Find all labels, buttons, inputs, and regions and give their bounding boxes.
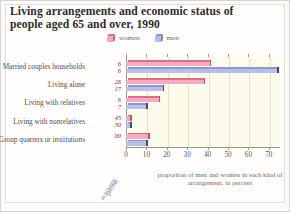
category-label: Living alone: [48, 80, 85, 89]
chart-frame: Living arrangements and economic status …: [0, 0, 290, 212]
x-tick-label: 50: [224, 151, 231, 159]
bar-men: [126, 103, 146, 109]
page-title: Living arrangements and economic status …: [10, 5, 260, 31]
bar-row: Group quarters or institutions00: [1, 133, 290, 147]
poverty-value-women: 26: [105, 78, 121, 85]
x-tick-label: 40: [204, 151, 211, 159]
x-tick: [228, 147, 229, 150]
legend-label-women: women: [119, 34, 140, 42]
x-tick-label: 60: [245, 151, 252, 159]
bar-women: [126, 60, 210, 66]
x-tick-label: 0: [124, 151, 128, 159]
x-tick: [146, 147, 147, 150]
bar-women: [126, 115, 130, 121]
x-tick-label: 30: [184, 151, 191, 159]
bar-women: [126, 96, 159, 102]
x-tick-label: 70: [265, 151, 272, 159]
bar-men: [126, 122, 130, 128]
men-swatch-icon: [155, 34, 163, 42]
category-label: Married couples households: [3, 62, 85, 71]
poverty-value-men: 6: [105, 67, 121, 74]
x-tick: [208, 147, 209, 150]
bar-row: Living alone2617: [1, 78, 290, 92]
category-label: Group quarters or institutions: [0, 135, 85, 144]
bar-women: [126, 133, 148, 139]
x-tick: [248, 147, 249, 150]
x-axis-line: [126, 147, 280, 148]
x-tick: [167, 147, 168, 150]
x-tick-top: [269, 54, 270, 57]
poverty-value-men: 7: [105, 103, 121, 110]
x-tick-top: [187, 54, 188, 57]
bar-row: Married couples households66: [1, 60, 290, 74]
legend-item-women: women: [107, 34, 140, 42]
x-tick-top: [167, 54, 168, 57]
x-tick-top: [248, 54, 249, 57]
bar-women: [126, 78, 204, 84]
poverty-value-men: 17: [105, 85, 121, 92]
legend-label-men: men: [167, 34, 179, 42]
x-tick: [269, 147, 270, 150]
bar-men: [126, 85, 163, 91]
x-tick-label: 20: [163, 151, 170, 159]
x-tick-top: [146, 54, 147, 57]
x-axis-caption: proportion of men and women in each kind…: [153, 171, 287, 187]
bar-row: Living with relatives67: [1, 96, 290, 110]
poverty-value-men: 30: [105, 121, 121, 128]
poverty-axis-caption: percent in poverty: [104, 164, 146, 198]
category-label: Living with nonrelatives: [13, 117, 85, 126]
bar-men: [126, 67, 277, 73]
x-tick-label: 10: [143, 151, 150, 159]
x-tick-top: [208, 54, 209, 57]
women-swatch-icon: [107, 34, 115, 42]
x-tick-top: [126, 54, 127, 57]
chart-legend: women men: [107, 34, 179, 42]
x-tick-top: [228, 54, 229, 57]
bar-row: Living with nonrelatives4530: [1, 115, 290, 129]
poverty-value-women: 45: [105, 114, 121, 121]
bar-men: [126, 140, 146, 146]
poverty-value-women: 00: [105, 132, 121, 139]
category-label: Living with relatives: [24, 98, 85, 107]
poverty-value-women: 6: [105, 96, 121, 103]
x-tick: [126, 147, 127, 150]
poverty-value-women: 6: [105, 60, 121, 67]
legend-item-men: men: [155, 34, 179, 42]
x-tick: [187, 147, 188, 150]
